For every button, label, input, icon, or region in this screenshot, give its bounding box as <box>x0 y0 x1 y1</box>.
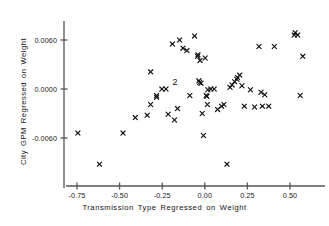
data-point-marker <box>204 93 208 97</box>
data-point-marker <box>166 112 170 116</box>
data-point-marker <box>154 95 158 99</box>
x-axis-tick-label: 0.00 <box>198 191 212 200</box>
data-point-marker <box>201 133 205 137</box>
data-point-marker <box>205 102 209 106</box>
data-point-marker <box>188 93 192 97</box>
data-point-marker <box>238 73 242 77</box>
data-point-marker <box>175 107 179 111</box>
data-point-marker <box>260 104 264 108</box>
scatter-series <box>76 31 305 167</box>
data-point-marker <box>76 131 80 135</box>
data-point-marker <box>257 44 261 48</box>
data-point-marker <box>235 75 239 79</box>
data-point-marker <box>177 38 181 42</box>
data-point-marker <box>206 88 210 92</box>
data-point-marker <box>97 162 101 166</box>
data-point-marker <box>197 79 201 83</box>
data-point-marker <box>145 113 149 117</box>
data-point-marker <box>149 70 153 74</box>
data-point-marker <box>263 93 267 97</box>
data-point-marker <box>149 102 153 106</box>
data-point-marker <box>248 88 252 92</box>
data-point-marker <box>172 118 176 122</box>
data-point-marker <box>164 87 168 91</box>
data-point-marker <box>200 111 204 115</box>
x-axis-tick-label: -0.25 <box>154 191 171 200</box>
data-point-marker <box>240 84 244 88</box>
data-point-marker <box>209 87 213 91</box>
data-point-marker <box>212 87 216 91</box>
y-axis-tick-label: 0.0060 <box>12 36 57 45</box>
partial-regression-plot: City GPM Regressed on Weight Transmissio… <box>0 0 329 226</box>
data-point-marker <box>196 54 200 58</box>
data-point-marker <box>192 34 196 38</box>
data-point-marker <box>225 162 229 166</box>
data-point-marker <box>121 131 125 135</box>
data-point-marker <box>298 93 302 97</box>
data-point-marker <box>252 105 256 109</box>
data-point-marker <box>205 94 209 98</box>
data-point-marker <box>170 42 174 46</box>
data-point-marker <box>215 107 219 111</box>
x-axis-tick-label: 0.50 <box>283 191 297 200</box>
data-point-marker <box>160 87 164 91</box>
x-axis-tick-label: -0.50 <box>111 191 128 200</box>
data-point-marker <box>222 102 226 106</box>
data-point-marker <box>230 83 234 87</box>
data-point-marker <box>296 33 300 37</box>
data-point-marker <box>293 31 297 35</box>
data-point-marker <box>198 80 202 84</box>
overplot-count-label: 2 <box>172 77 177 87</box>
data-point-marker <box>272 44 276 48</box>
y-axis-tick-label: 0.0000 <box>12 85 57 94</box>
data-point-marker <box>199 81 203 85</box>
data-point-marker <box>203 56 207 60</box>
x-axis-title: Transmission Type Regressed on Weight <box>0 203 329 212</box>
data-point-marker <box>181 46 185 50</box>
data-point-marker <box>292 33 296 37</box>
data-point-marker <box>228 85 232 89</box>
y-axis-title: City GPM Regressed on Weight <box>19 22 28 182</box>
data-point-marker <box>233 80 237 84</box>
data-point-marker <box>301 54 305 58</box>
data-point-marker <box>259 90 263 94</box>
data-point-marker <box>198 58 202 62</box>
data-point-marker <box>235 77 239 81</box>
data-point-marker <box>185 49 189 53</box>
x-axis-tick-label: -0.75 <box>69 191 86 200</box>
data-point-marker <box>133 115 137 119</box>
y-axis-tick-label: -0.0060 <box>12 134 57 143</box>
data-point-marker <box>242 104 246 108</box>
data-point-marker <box>219 104 223 108</box>
data-point-marker <box>267 104 271 108</box>
data-point-marker <box>154 93 158 97</box>
x-axis-tick-label: 0.25 <box>240 191 254 200</box>
data-point-marker <box>196 53 200 57</box>
